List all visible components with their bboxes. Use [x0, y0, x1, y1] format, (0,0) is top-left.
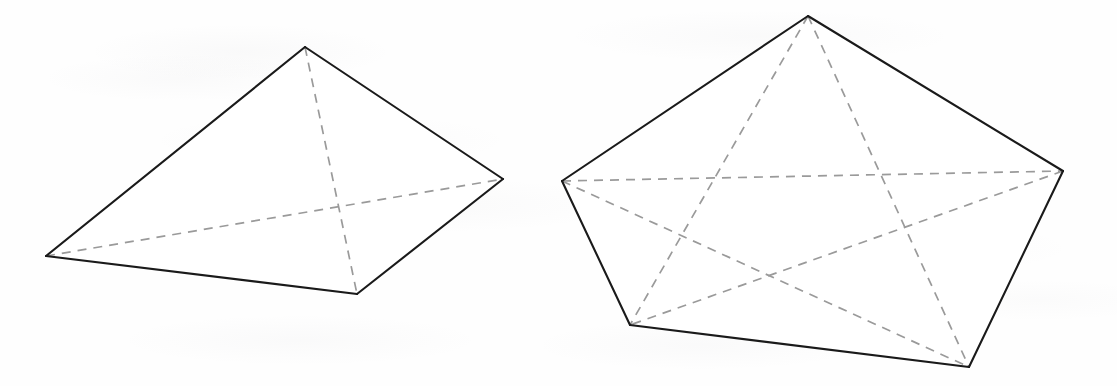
scanned-page [0, 0, 1117, 386]
pentagonal-pyramid-outline-fill [562, 16, 1063, 367]
figure-pentagonal-pyramid [562, 16, 1063, 367]
figure-square-pyramid [46, 47, 503, 294]
square-pyramid-outline-fill [46, 47, 503, 294]
geometry-figures-canvas [0, 0, 1117, 386]
